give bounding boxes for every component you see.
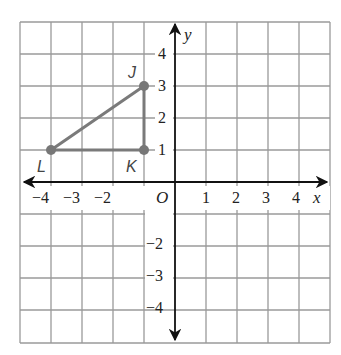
y-tick-label: −4 <box>146 299 163 316</box>
x-tick-label: 2 <box>232 189 240 206</box>
x-tick-label: 1 <box>202 189 210 206</box>
x-tick-label: −3 <box>63 189 80 206</box>
label-backgrounds <box>26 44 330 288</box>
point-k <box>139 145 149 155</box>
y-tick-label: 3 <box>158 77 166 94</box>
y-tick-label: 4 <box>158 45 166 62</box>
y-tick-label: 1 <box>158 141 166 158</box>
y-axis-label: y <box>182 25 192 44</box>
point-j-label: J <box>127 64 137 81</box>
point-l <box>46 145 56 155</box>
y-tick-label: −3 <box>146 267 163 284</box>
x-axis-label: x <box>312 188 321 207</box>
coordinate-plane: x y O −4 −3 −2 1 2 3 4 4 3 2 1 −2 −3 −4 … <box>0 0 341 355</box>
x-tick-label: −2 <box>94 189 111 206</box>
x-tick-label: 3 <box>262 189 270 206</box>
point-l-label: L <box>37 158 46 175</box>
point-j <box>139 81 149 91</box>
y-tick-label: −2 <box>146 235 163 252</box>
point-k-label: K <box>126 158 138 175</box>
y-tick-label: 2 <box>158 109 166 126</box>
x-tick-label: 4 <box>292 189 300 206</box>
x-tick-label: −4 <box>32 189 49 206</box>
origin-label: O <box>156 188 168 207</box>
